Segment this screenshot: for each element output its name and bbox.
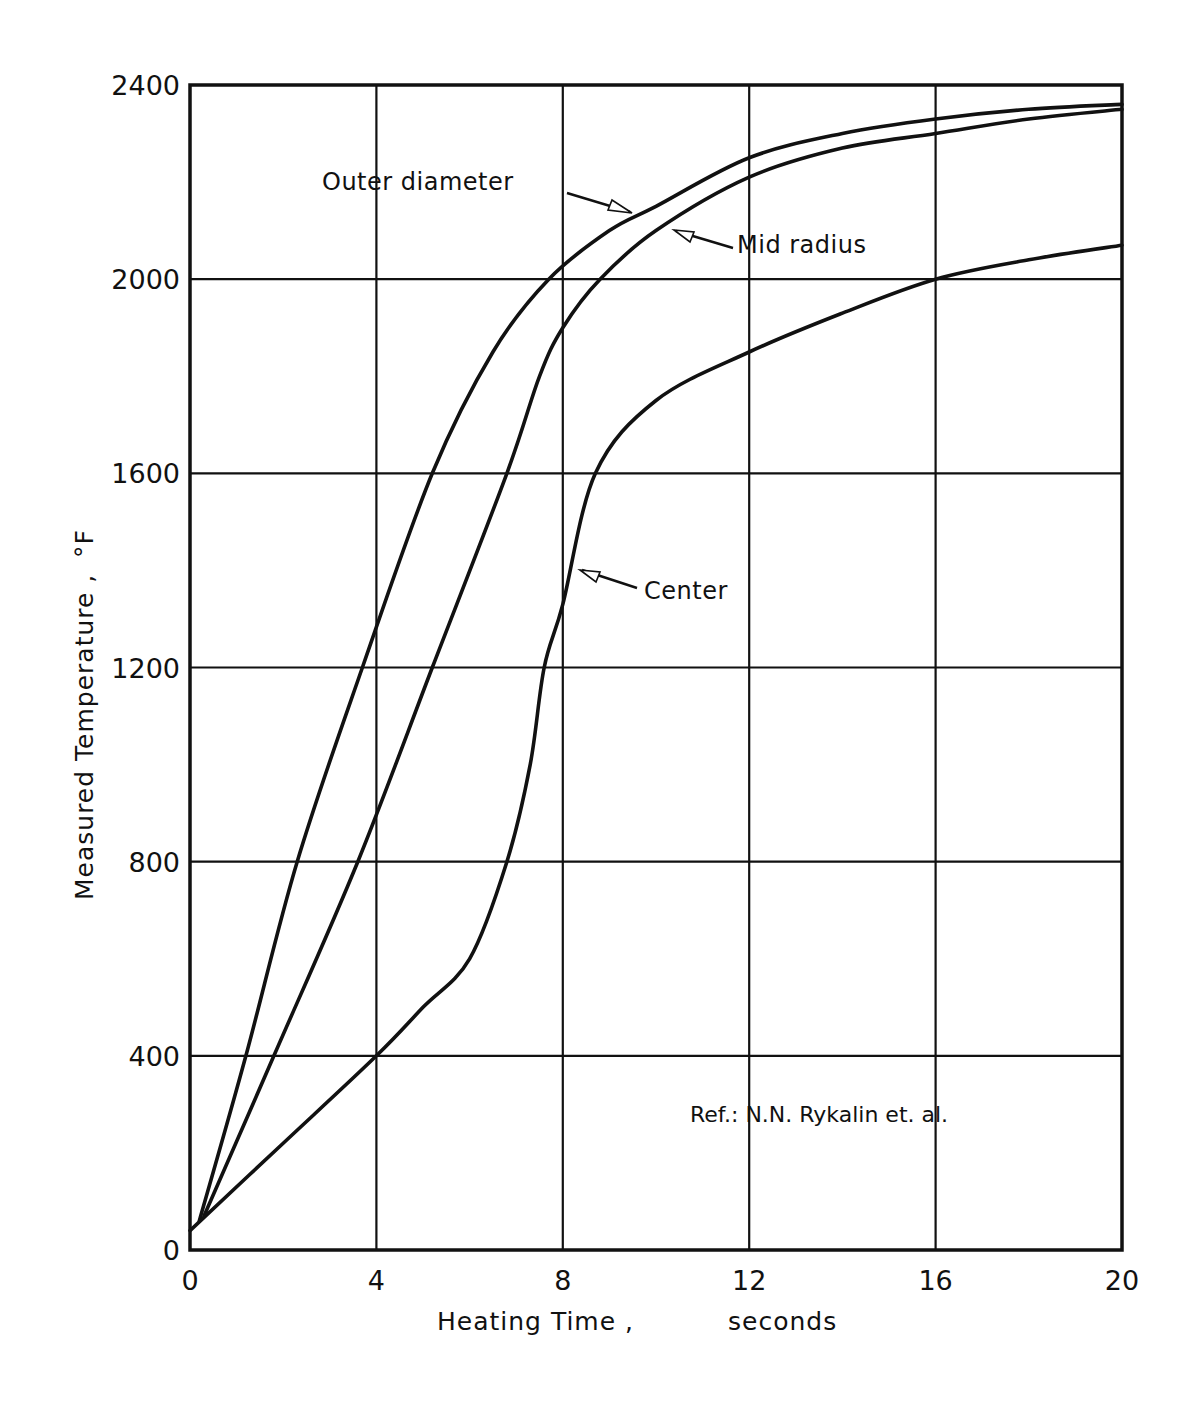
x-tick-label: 20 [1105,1265,1139,1296]
center-arrow-icon [580,570,600,582]
y-tick-label: 1600 [111,458,180,489]
y-axis-title-group: Measured Temperature , °F [70,529,99,900]
y-tick-label: 2000 [111,264,180,295]
x-tick-label: 16 [918,1265,952,1296]
outer-diameter-label: Outer diameter [322,168,514,196]
y-tick-label: 1200 [111,653,180,684]
x-axis-unit: seconds [728,1307,837,1336]
mid-radius-arrow-icon [674,230,694,242]
y-axis-unit: °F [70,529,99,558]
x-axis-title: Heating Time , [437,1307,634,1336]
y-tick-label: 0 [163,1235,180,1266]
grid [190,85,1122,1250]
x-tick-label: 4 [368,1265,385,1296]
y-tick-label: 400 [128,1041,180,1072]
chart-svg: 04008001200160020002400 048121620 Outer … [0,0,1189,1403]
center-label: Center [644,577,728,605]
y-axis-title: Measured Temperature , [70,574,99,900]
y-tick-label: 2400 [111,70,180,101]
y-axis-ticks: 04008001200160020002400 [111,70,180,1266]
x-axis-ticks: 048121620 [181,1265,1139,1296]
x-tick-label: 8 [554,1265,571,1296]
x-tick-label: 12 [732,1265,766,1296]
x-tick-label: 0 [181,1265,198,1296]
reference-note: Ref.: N.N. Rykalin et. al. [690,1102,948,1127]
chart: 04008001200160020002400 048121620 Outer … [0,0,1189,1403]
series-center [190,245,1122,1230]
series-outer-diameter [199,104,1122,1221]
mid-radius-label: Mid radius [737,231,866,259]
outer-diameter-arrow-icon [608,200,632,213]
y-tick-label: 800 [128,847,180,878]
series-mid-radius [204,109,1122,1216]
